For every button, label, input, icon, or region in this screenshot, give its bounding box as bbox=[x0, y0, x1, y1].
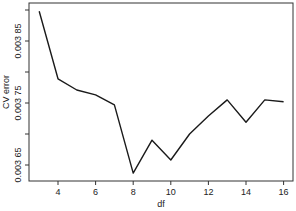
x-tick-label: 10 bbox=[166, 187, 176, 197]
x-tick-label: 6 bbox=[93, 187, 98, 197]
cv-error-chart: 0.003 850.003 750.003 65 46810121416 df … bbox=[0, 0, 296, 211]
x-axis: 46810121416 bbox=[55, 181, 288, 197]
x-tick-label: 14 bbox=[241, 187, 251, 197]
x-tick-label: 12 bbox=[203, 187, 213, 197]
y-axis: 0.003 850.003 750.003 65 bbox=[13, 10, 29, 183]
cv-error-line bbox=[39, 11, 283, 173]
y-tick-label: 0.003 85 bbox=[13, 23, 23, 58]
x-tick-label: 8 bbox=[131, 187, 136, 197]
plot-frame bbox=[29, 3, 293, 181]
x-tick-label: 4 bbox=[55, 187, 60, 197]
x-tick-label: 16 bbox=[279, 187, 289, 197]
x-axis-label: df bbox=[157, 199, 165, 209]
y-axis-label: CV error bbox=[1, 75, 11, 109]
y-tick-label: 0.003 65 bbox=[13, 147, 23, 182]
y-tick-label: 0.003 75 bbox=[13, 85, 23, 120]
